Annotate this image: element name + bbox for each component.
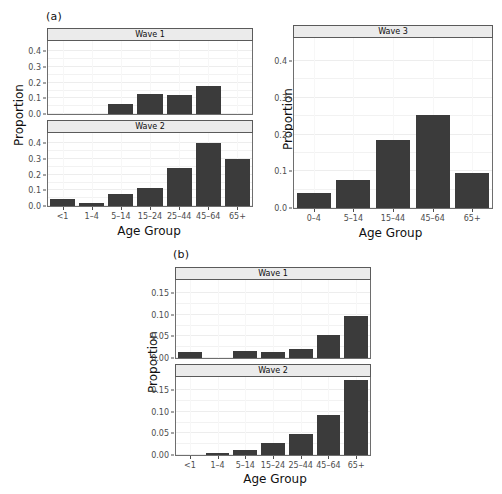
figure-root: (a) Proportion Age Group Wave 10.00.10.2… (0, 0, 502, 494)
grid-line-vertical (63, 41, 64, 114)
x-axis-tick-mark (314, 209, 315, 212)
y-axis-tick-label: 0.10 (139, 407, 169, 416)
y-axis-tick-label: 0.1 (11, 94, 41, 103)
grid-line-vertical (218, 377, 219, 455)
grid-line-vertical (218, 280, 219, 358)
y-axis-tick-mark (171, 336, 174, 337)
facet-strip-label: Wave 2 (47, 120, 253, 133)
x-axis-tick-mark (63, 207, 64, 210)
y-axis-tick-label: 0.3 (11, 63, 41, 72)
bar (336, 180, 370, 208)
bar (344, 380, 368, 455)
x-axis-tick-mark (301, 456, 302, 459)
y-axis-tick-mark (171, 390, 174, 391)
x-axis-tick-label: 25–44 (289, 461, 313, 470)
bar (225, 159, 250, 206)
y-axis-tick-label: 0.0 (257, 204, 287, 213)
facet-strip-label: Wave 2 (175, 364, 371, 377)
x-axis-tick-mark (121, 207, 122, 210)
bar (79, 203, 104, 206)
bar (317, 415, 341, 455)
x-axis-tick-mark (433, 209, 434, 212)
bar (196, 143, 221, 206)
facet-a-wave1: Wave 10.00.10.20.30.4 (47, 28, 253, 115)
y-axis-tick-label: 0.1 (257, 167, 287, 176)
facet-strip-label: Wave 1 (175, 267, 371, 280)
x-axis-tick-label: 45–64 (316, 461, 340, 470)
facet-strip-label: Wave 3 (293, 25, 493, 38)
bar (206, 453, 230, 455)
y-axis-tick-label: 0.05 (139, 429, 169, 438)
x-axis-tick-label: 15–24 (261, 461, 285, 470)
grid-line-vertical (92, 133, 93, 206)
panel-a-letter: (a) (46, 10, 62, 23)
x-axis-tick-label: 1–4 (85, 212, 99, 221)
y-axis-tick-label: 0.00 (139, 451, 169, 460)
x-axis-tick-mark (237, 207, 238, 210)
grid-line-vertical (190, 280, 191, 358)
bar (455, 173, 489, 208)
panel-a-group: (a) Proportion Age Group Wave 10.00.10.2… (0, 0, 258, 242)
y-axis-tick-label: 0.15 (139, 289, 169, 298)
panel-b-group: (b) Proportion Age Group Wave 10.000.050… (140, 245, 502, 494)
y-axis-tick-label: 0.4 (257, 57, 287, 66)
plot-area (175, 280, 371, 359)
y-axis-tick-mark (171, 293, 174, 294)
x-axis-tick-mark (179, 207, 180, 210)
bar (233, 351, 257, 358)
plot-area (47, 41, 253, 115)
x-axis-tick-mark (273, 456, 274, 459)
y-axis-tick-mark (43, 51, 46, 52)
y-axis-tick-mark (171, 358, 174, 359)
bar (108, 104, 133, 114)
grid-line-vertical (92, 41, 93, 114)
y-axis-tick-mark (43, 67, 46, 68)
bar (297, 193, 331, 208)
y-axis-tick-label: 0.4 (11, 47, 41, 56)
y-axis-tick-mark (43, 206, 46, 207)
facet-wave3: Wave 30.00.10.20.30.40–45–1415–4445–6465… (293, 25, 493, 209)
y-axis-tick-mark (171, 411, 174, 412)
plot-area (47, 133, 253, 207)
x-axis-tick-mark (245, 456, 246, 459)
x-axis-tick-label: 5–14 (111, 212, 130, 221)
x-axis-tick-label: 0–4 (307, 214, 321, 223)
y-axis-tick-label: 0.2 (257, 130, 287, 139)
x-axis-tick-mark (218, 456, 219, 459)
x-axis-tick-mark (150, 207, 151, 210)
bar (50, 199, 75, 207)
y-axis-tick-label: 0.00 (139, 354, 169, 363)
y-axis-tick-mark (289, 208, 292, 209)
plot-area (293, 38, 493, 209)
y-axis-tick-mark (289, 171, 292, 172)
x-axis-tick-mark (472, 209, 473, 212)
x-axis-tick-mark (328, 456, 329, 459)
panel-wave3-group: Proportion Age Group Wave 30.00.10.20.30… (258, 0, 502, 242)
x-axis-tick-mark (356, 456, 357, 459)
panel-b-letter: (b) (173, 248, 189, 261)
y-axis-tick-label: 0.2 (11, 170, 41, 179)
y-axis-tick-mark (289, 61, 292, 62)
facet-b-wave1: Wave 10.000.050.100.15 (175, 267, 371, 359)
facet-a-wave2: Wave 20.00.10.20.30.4<11–45–1415–2425–44… (47, 120, 253, 207)
y-axis-tick-mark (171, 314, 174, 315)
x-axis-tick-mark (353, 209, 354, 212)
y-axis-tick-mark (43, 98, 46, 99)
x-axis-tick-mark (190, 456, 191, 459)
x-axis-tick-label: 5–14 (344, 214, 363, 223)
y-axis-tick-label: 0.1 (11, 186, 41, 195)
x-axis-tick-label: 65+ (348, 461, 365, 470)
bar (233, 450, 257, 455)
y-axis-tick-label: 0.3 (11, 155, 41, 164)
grid-line-vertical (245, 377, 246, 455)
bar (196, 86, 221, 114)
x-axis-tick-label: 15–24 (138, 212, 162, 221)
bar (416, 115, 450, 208)
y-axis-tick-mark (43, 190, 46, 191)
y-axis-tick-mark (43, 159, 46, 160)
y-axis-tick-label: 0.2 (11, 78, 41, 87)
grid-line-vertical (301, 280, 302, 358)
x-axis-tick-label: 65+ (229, 212, 246, 221)
bar (344, 316, 368, 358)
x-axis-tick-label: <1 (184, 461, 196, 470)
